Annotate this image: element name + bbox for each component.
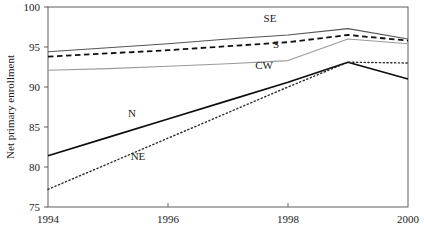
line-chart: 7580859095100 1994199619982000 SESCWNNE … [0,0,424,230]
chart-background [0,0,424,230]
y-tick-label: 95 [29,41,41,53]
y-axis-label: Net primary enrollment [4,55,16,159]
y-tick-label: 85 [29,121,41,133]
y-tick-label: 100 [24,1,41,13]
x-tick-label: 1994 [37,213,60,225]
series-label-se: SE [264,12,277,24]
x-tick-label: 1996 [157,213,180,225]
series-label-cw: CW [255,59,273,71]
y-tick-label: 80 [29,161,41,173]
series-label-ne: NE [131,150,146,162]
x-tick-label: 2000 [397,213,420,225]
y-tick-label: 75 [29,201,41,213]
series-label-s: S [273,38,279,50]
y-tick-label: 90 [29,81,41,93]
series-label-n: N [128,107,136,119]
chart-container: 7580859095100 1994199619982000 SESCWNNE … [0,0,424,230]
x-tick-label: 1998 [277,213,300,225]
y-axis-title: Net primary enrollment [4,55,16,159]
